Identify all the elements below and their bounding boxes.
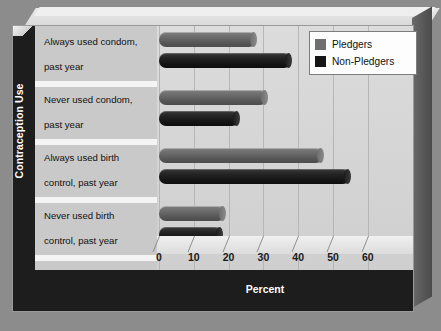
- bar-end-cap: [317, 148, 324, 163]
- category-separator-1: [35, 139, 157, 145]
- x-tick-10: [187, 236, 194, 252]
- category-label-0-line2: past year: [44, 61, 137, 73]
- y-axis-title: Contraception Use: [8, 66, 30, 196]
- bar-end-cap: [261, 90, 268, 105]
- x-tick-20: [222, 236, 229, 252]
- x-tick-label-30: 30: [258, 251, 270, 263]
- x-axis-title: Percent: [205, 283, 325, 295]
- x-tick-label-0: 0: [156, 251, 162, 263]
- category-label-1-line1: Never used condom,: [44, 94, 133, 106]
- x-tick-label-20: 20: [223, 251, 235, 263]
- legend-label-non-pledgers: Non-Pledgers: [332, 56, 394, 67]
- legend-item-pledgers: Pledgers: [315, 36, 411, 53]
- category-label-0: Always used condom,past year: [35, 30, 157, 79]
- legend-swatch-pledgers: [315, 39, 326, 50]
- bar-non-pledgers-1: [159, 111, 239, 126]
- x-tick-label-40: 40: [292, 251, 304, 263]
- legend-item-non-pledgers: Non-Pledgers: [315, 53, 411, 70]
- bar-non-pledgers-2: [159, 169, 350, 184]
- slab-top-highlight: [34, 7, 436, 16]
- chart-figure: Contraception Use Always used condom,pas…: [0, 0, 441, 331]
- bar-end-cap: [233, 111, 240, 126]
- y-axis-band-bevel: [13, 26, 35, 36]
- category-label-2: Always used birthcontrol, past year: [35, 146, 157, 195]
- category-separator-3: [35, 255, 157, 261]
- x-tick-label-10: 10: [188, 251, 200, 263]
- x-tick-30: [257, 236, 264, 252]
- bar-pledgers-3: [159, 206, 225, 221]
- legend-label-pledgers: Pledgers: [332, 39, 372, 50]
- category-label-1-line2: past year: [44, 119, 133, 131]
- bar-pledgers-1: [159, 90, 267, 105]
- category-separator-2: [35, 197, 157, 203]
- x-tick-60: [361, 236, 368, 252]
- category-label-column: Always used condom,past year Never used …: [35, 26, 157, 270]
- x-tick-label-50: 50: [327, 251, 339, 263]
- x-tick-50: [327, 236, 334, 252]
- category-separator-0: [35, 81, 157, 87]
- x-tick-label-60: 60: [362, 251, 374, 263]
- category-label-3-line2: control, past year: [44, 235, 118, 247]
- x-tick-40: [292, 236, 299, 252]
- x-axis-tick-labels: 0102030405060: [140, 251, 430, 267]
- legend: Pledgers Non-Pledgers: [309, 31, 417, 75]
- bar-pledgers-2: [159, 148, 323, 163]
- legend-swatch-non-pledgers: [315, 56, 326, 67]
- category-label-2-line1: Always used birth: [44, 152, 119, 164]
- category-label-3: Never used birthcontrol, past year: [35, 204, 157, 253]
- bar-non-pledgers-0: [159, 53, 291, 68]
- category-label-0-line1: Always used condom,: [44, 36, 137, 48]
- category-label-1: Never used condom,past year: [35, 88, 157, 137]
- bar-pledgers-0: [159, 32, 256, 47]
- category-label-3-line1: Never used birth: [44, 210, 118, 222]
- category-label-2-line2: control, past year: [44, 177, 119, 189]
